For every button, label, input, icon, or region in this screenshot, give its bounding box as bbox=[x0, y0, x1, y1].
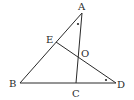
label-A: A bbox=[77, 1, 86, 12]
angle-mark-A-dot bbox=[77, 23, 79, 25]
label-C: C bbox=[72, 88, 80, 99]
label-D: D bbox=[117, 79, 125, 90]
angle-mark-D-dot bbox=[105, 79, 107, 81]
label-E: E bbox=[46, 34, 53, 45]
label-B: B bbox=[9, 78, 16, 89]
geometry-diagram: A B C D E O bbox=[0, 0, 134, 100]
segment-AB bbox=[20, 13, 82, 83]
label-O: O bbox=[81, 48, 89, 59]
